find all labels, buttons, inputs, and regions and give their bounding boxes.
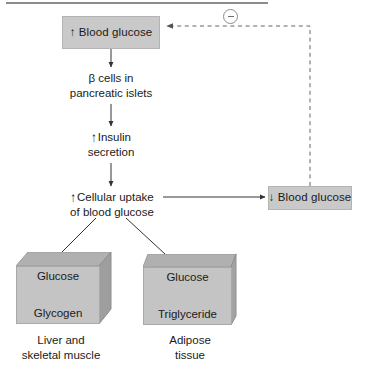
liver-caption-line2: skeletal muscle [6,348,116,363]
adipose-caption-line2: tissue [135,348,245,363]
insulin-secretion-line2: secretion [61,145,161,160]
liver-caption-line1: Liver and [6,333,116,348]
adipose-cube-glucose-text: Glucose [166,271,208,284]
node-blood-glucose-decreased: ↓ Blood glucose [268,186,352,210]
blood-glucose-down-text: ↓ Blood glucose [269,191,352,204]
cube-liver-skeletal-muscle: Glucose Glycogen [16,252,112,326]
up-arrow-glyph-insulin: ↑ [91,129,97,147]
caption-liver-skeletal-muscle: Liver and skeletal muscle [6,333,116,363]
beta-cells-line1: β cells in [46,71,176,86]
liver-cube-front-face: Glucose Glycogen [16,266,100,324]
cube-adipose-tissue: Glucose Triglyceride [143,254,237,328]
cellular-uptake-line1: ↑Cellular uptake [46,190,178,205]
insulin-secretion-line1: ↑Insulin [61,130,161,145]
insulin-secretion-word: Insulin [98,131,131,143]
minus-bar-glyph [228,16,234,17]
node-insulin-secretion: ↑Insulin secretion [61,130,161,160]
negative-feedback-minus-icon [223,9,238,24]
liver-cube-glycogen-text: Glycogen [34,307,83,320]
node-cellular-uptake: ↑Cellular uptake of blood glucose [46,190,178,220]
node-beta-cells: β cells in pancreatic islets [46,71,176,101]
caption-adipose-tissue: Adipose tissue [135,333,245,363]
node-blood-glucose-increased: ↑ Blood glucose [62,16,160,49]
up-arrow-glyph-uptake: ↑ [70,189,76,207]
adipose-caption-line1: Adipose [135,333,245,348]
liver-cube-glucose-text: Glucose [37,270,79,283]
adipose-cube-front-face: Glucose Triglyceride [143,267,232,325]
adipose-cube-triglyceride-text: Triglyceride [158,308,217,321]
diagram-canvas: ↑ Blood glucose β cells in pancreatic is… [0,0,365,366]
blood-glucose-up-text: ↑ Blood glucose [70,26,153,39]
beta-cells-line2: pancreatic islets [46,86,176,101]
feedback-dashed-path [167,26,310,186]
cellular-uptake-line2: of blood glucose [46,205,178,220]
cellular-uptake-words: Cellular uptake [77,191,154,203]
